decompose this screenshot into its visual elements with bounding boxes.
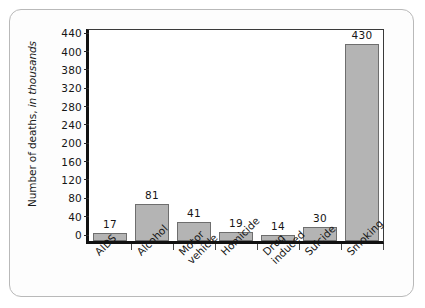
y-axis-tick-mark [84,88,89,89]
bar-value-label: 430 [341,29,383,41]
y-axis-tick-label: 160 [61,156,82,168]
y-axis-title-plain: Number of deaths, [26,111,38,207]
chart-screenshot: Number of deaths, in thousands 178141191… [0,0,425,308]
y-axis-tick-label: 400 [61,46,82,58]
y-axis-tick-mark [84,179,89,180]
y-axis-tick-label: 440 [61,27,82,39]
y-axis-tick-label: 240 [61,119,82,131]
bar-chart: Number of deaths, in thousands 178141191… [0,0,425,308]
y-axis-tick-label: 320 [61,82,82,94]
y-axis-title: Number of deaths, in thousands [26,34,42,214]
y-axis-tick-label: 200 [61,137,82,149]
y-axis-tick-mark [84,69,89,70]
y-axis-tick-label: 280 [61,101,82,113]
y-axis-tick-mark [84,143,89,144]
y-axis-tick-mark [84,216,89,217]
y-axis-tick-label: 40 [68,211,82,223]
y-axis-tick-mark [84,161,89,162]
y-axis-tick-mark [84,235,89,236]
y-axis-tick-label: 0 [75,229,82,241]
y-axis-tick-mark [84,51,89,52]
y-axis-tick-label: 120 [61,174,82,186]
y-axis-title-italic: in thousands [26,41,38,111]
y-axis-tick-mark [84,33,89,34]
y-axis-tick-mark [84,198,89,199]
y-axis-tick-label: 380 [61,64,82,76]
y-axis-tick-mark [84,106,89,107]
bar-group: 17 [89,30,131,241]
x-axis-labels: AIDSAlcoholMotorvehicleHomicideDruginduc… [86,250,384,308]
y-axis-tick-mark [84,124,89,125]
y-axis-tick-label: 80 [68,192,82,204]
